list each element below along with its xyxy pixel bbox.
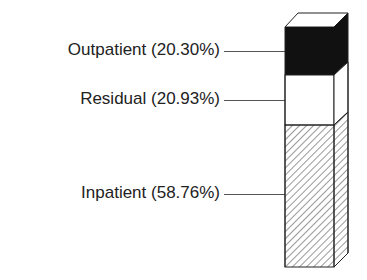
segment-inpatient [285,125,334,267]
stacked-bar [0,0,367,280]
segment-outpatient [285,27,334,75]
segment-residual [285,75,334,125]
